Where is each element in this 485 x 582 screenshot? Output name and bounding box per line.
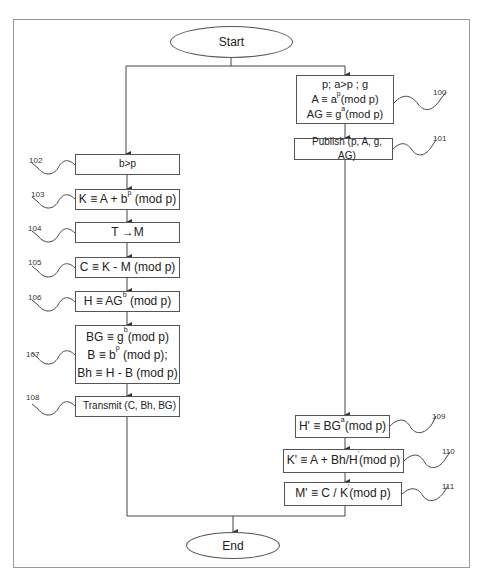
end-label: End: [222, 539, 243, 553]
step-text: (mod p): [131, 192, 176, 206]
step-107-box: BG ≡ gb(mod p)B ≡ bp (mod p);Bh ≡ H - B …: [75, 325, 180, 384]
exponent: a: [341, 105, 345, 112]
step-text: A ≡ a: [311, 93, 336, 105]
step-text: K' ≡ A + Bh/H: [287, 453, 358, 467]
step-text-line: BG ≡ gb(mod p): [86, 328, 169, 346]
step-text-line: M' ≡ C / K'(mod p): [295, 485, 390, 502]
step-text: K ≡ A + b: [79, 192, 128, 206]
exponent: b: [123, 291, 127, 298]
start-terminal: Start: [170, 26, 293, 58]
step-104-box: T →M: [75, 222, 180, 243]
step-text: T →M: [111, 225, 143, 239]
ref-105: 105: [28, 258, 41, 267]
step-text: H' ≡ BG: [299, 419, 341, 433]
step-text-line: Transmit (C, Bh, BG): [83, 399, 176, 414]
step-text: M' ≡ C / K: [295, 486, 348, 500]
step-text-line: AG ≡ ga(mod p): [307, 107, 383, 122]
ref-102: 102: [29, 156, 42, 165]
step-text-line: K ≡ A + bp (mod p): [79, 191, 176, 208]
step-text-line: B ≡ bp (mod p);: [87, 346, 167, 364]
step-text-line: b>p: [119, 157, 136, 172]
step-text-line: Bh ≡ H - B (mod p): [77, 364, 177, 382]
ref-106: 106: [28, 293, 41, 302]
ref-111: 111: [442, 482, 454, 491]
step-103-box: K ≡ A + bp (mod p): [75, 189, 180, 210]
step-text: BG ≡ g: [86, 330, 124, 344]
step-text: C ≡ K - M (mod p): [80, 260, 176, 274]
exponent: b: [124, 326, 128, 333]
step-text: (mod p): [345, 108, 383, 120]
connector-lines: [0, 0, 485, 582]
step-text-line: p; a>p ; g: [322, 77, 368, 92]
step-text: b>p: [119, 158, 136, 169]
step-text: p; a>p ; g: [322, 78, 368, 90]
step-text-line: H' ≡ BGa(mod p): [299, 418, 386, 435]
ref-103: 103: [31, 190, 44, 199]
step-108-box: Transmit (C, Bh, BG): [75, 396, 180, 417]
step-101-box: Publish (p, A, g, AG): [294, 138, 393, 160]
step-text: (mod p): [345, 419, 386, 433]
ref-101: 101: [433, 134, 446, 143]
step-text-line: C ≡ K - M (mod p): [80, 259, 176, 276]
ref-110: 110: [442, 447, 455, 456]
ref-100: 100: [433, 88, 446, 97]
step-text: H ≡ AG: [84, 294, 123, 308]
step-text: (mod p);: [120, 348, 168, 362]
ref-104: 104: [28, 224, 41, 233]
step-110-box: K' ≡ A + Bh/H'(mod p): [283, 449, 404, 473]
end-terminal: End: [186, 532, 280, 559]
exponent: p: [116, 344, 120, 351]
exponent: a: [341, 416, 345, 423]
step-text-line: K' ≡ A + Bh/H'(mod p): [287, 452, 401, 469]
step-text: AG ≡ g: [307, 108, 342, 120]
step-109-box: H' ≡ BGa(mod p): [295, 415, 390, 438]
start-label: Start: [219, 35, 244, 49]
step-105-box: C ≡ K - M (mod p): [75, 257, 180, 278]
exponent: ': [358, 450, 359, 457]
step-text: Transmit (C, Bh, BG): [83, 400, 176, 411]
leader-squiggle: [393, 140, 436, 155]
step-text: (mod p): [128, 330, 169, 344]
exponent: p: [128, 189, 132, 196]
ref-108: 108: [26, 393, 39, 402]
step-text: (mod p): [359, 453, 400, 467]
leader-squiggle: [390, 416, 436, 433]
exponent: p: [337, 90, 341, 97]
step-100-box: p; a>p ; gA ≡ ap(mod p)AG ≡ ga(mod p): [296, 75, 394, 124]
step-text: Bh ≡ H - B (mod p): [77, 366, 177, 380]
step-text: Publish (p, A, g, AG): [312, 136, 382, 162]
step-106-box: H ≡ AGb (mod p): [75, 291, 180, 312]
ref-109: 109: [432, 412, 445, 421]
step-text: (mod p): [127, 294, 172, 308]
step-text: (mod p): [349, 486, 390, 500]
leader-squiggle: [32, 402, 75, 415]
step-111-box: M' ≡ C / K'(mod p): [284, 482, 402, 506]
step-102-box: b>p: [75, 154, 180, 175]
step-text-line: Publish (p, A, g, AG): [302, 135, 392, 164]
step-text: (mod p): [341, 93, 379, 105]
step-text-line: T →M: [111, 224, 143, 241]
step-text-line: H ≡ AGb (mod p): [84, 293, 172, 310]
ref-107: 107: [26, 350, 39, 359]
step-text: B ≡ b: [87, 348, 115, 362]
